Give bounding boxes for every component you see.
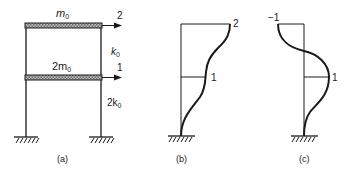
bottom-mass-label: 2m0 — [52, 60, 71, 73]
bottom-stiffness-label: 2k0 — [107, 97, 122, 109]
dof-arrow-1 — [102, 75, 122, 81]
top-mass-label: m0 — [56, 7, 69, 20]
caption-c: (c) — [299, 154, 310, 164]
mode-c-mid-label: 1 — [332, 72, 338, 83]
mode-b-mid-label: 1 — [211, 72, 217, 83]
dof-2-label: 2 — [117, 10, 123, 21]
frame-figure-a: m0 2m0 2 1 k0 2k0 (a) — [14, 7, 123, 164]
mode-curve — [181, 24, 230, 136]
mode-shape-c: −1 1 (c) — [268, 12, 338, 164]
dof-1-label: 1 — [117, 62, 123, 73]
caption-a: (a) — [57, 154, 68, 164]
diagram-canvas: m0 2m0 2 1 k0 2k0 (a) — [0, 0, 354, 174]
mode-shape-b: 2 1 (b) — [168, 18, 239, 164]
right-fixed-support-icon — [89, 137, 114, 143]
caption-b: (b) — [176, 154, 187, 164]
top-beam — [25, 23, 102, 28]
top-stiffness-label: k0 — [111, 46, 120, 58]
mode-b-top-label: 2 — [233, 18, 239, 29]
fixed-support-icon — [291, 136, 318, 142]
mode-c-top-label: −1 — [268, 12, 280, 23]
left-fixed-support-icon — [14, 137, 39, 143]
dof-arrow-2 — [102, 23, 122, 29]
fixed-support-icon — [168, 136, 195, 142]
bottom-beam — [25, 75, 102, 80]
